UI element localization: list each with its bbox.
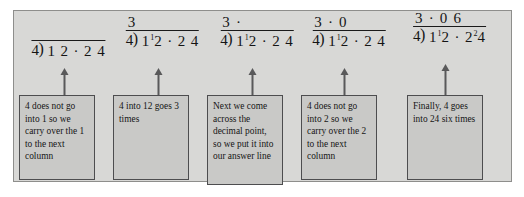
- quotient-2: 3: [117, 15, 199, 30]
- carry-mark: 1: [337, 33, 341, 42]
- arrow-4: [340, 68, 349, 95]
- arrow-3: [248, 68, 257, 95]
- division-expression-2: 3 4 ) 112 · 2 4: [117, 15, 199, 50]
- division-step-4: 3 · 0 4 ) 112 · 2 4 4 does not go into 2…: [292, 11, 397, 181]
- arrow-1: [60, 68, 69, 95]
- division-expression-5: 3 · 0 6 4 ) 112 · 224: [404, 11, 486, 46]
- arrow-head-icon: [60, 68, 68, 75]
- division-step-5: 3 · 0 6 4 ) 112 · 224 Finally, 4 goes in…: [389, 11, 501, 181]
- dividend-2: 112 · 2 4: [140, 32, 199, 50]
- division-step-3: 3 · 4 ) 112 · 2 4 Next we come across th…: [200, 11, 305, 181]
- dividend-5: 112 · 224: [427, 28, 486, 46]
- quotient-4: 3 · 0: [303, 15, 385, 30]
- explanation-box-1: 4 does not go into 1 so we carry over th…: [19, 95, 95, 180]
- long-division-figure: 4 ) 1 2 · 2 4 4 does not go into 1 so we…: [13, 10, 512, 182]
- arrow-5: [441, 64, 450, 95]
- division-bracket-2: 4 ) 112 · 2 4: [126, 30, 199, 50]
- dividend-3: 112 · 2 4: [234, 32, 293, 50]
- division-expression-4: 3 · 0 4 ) 112 · 2 4: [303, 15, 385, 50]
- division-bracket-glyph-5: ): [420, 27, 425, 44]
- explanation-box-4: 4 does not go into 2 so we carry over th…: [301, 95, 377, 180]
- division-expression-3: 3 · 4 ) 112 · 2 4: [211, 15, 293, 50]
- arrow-shaft: [63, 75, 65, 95]
- dividend-1: 1 2 · 2 4: [45, 42, 105, 60]
- arrow-head-icon: [441, 64, 449, 71]
- explanation-box-5: Finally, 4 goes into 24 six times: [407, 95, 483, 180]
- dividend-4: 112 · 2 4: [326, 32, 385, 50]
- division-step-1: 4 ) 1 2 · 2 4 4 does not go into 1 so we…: [14, 11, 114, 181]
- arrow-shaft: [157, 75, 159, 95]
- arrow-shaft: [252, 75, 254, 95]
- division-bracket-5: 4 ) 112 · 224: [413, 26, 486, 46]
- carry-mark: 1: [150, 33, 154, 42]
- quotient-5: 3 · 0 6: [404, 11, 486, 26]
- quotient-3: 3 ·: [211, 15, 293, 30]
- explanation-box-2: 4 into 12 goes 3 times: [113, 95, 189, 180]
- arrow-head-icon: [154, 68, 162, 75]
- division-bracket-glyph-1: ): [38, 41, 43, 58]
- quotient-1: [22, 25, 105, 40]
- division-expression-1: 4 ) 1 2 · 2 4: [22, 25, 105, 60]
- carry-mark: 2: [474, 29, 478, 38]
- explanation-box-3: Next we come across the decimal point, s…: [207, 95, 283, 185]
- division-bracket-3: 4 ) 112 · 2 4: [220, 30, 293, 50]
- division-bracket-1: 4 ) 1 2 · 2 4: [31, 40, 105, 60]
- division-bracket-glyph-4: ): [319, 31, 324, 48]
- carry-mark: 1: [245, 33, 249, 42]
- division-bracket-glyph-2: ): [133, 31, 138, 48]
- arrow-2: [154, 68, 163, 95]
- division-bracket-4: 4 ) 112 · 2 4: [312, 30, 385, 50]
- division-step-2: 3 4 ) 112 · 2 4 4 into 12 goes 3 times: [108, 11, 208, 181]
- arrow-shaft: [444, 71, 446, 95]
- division-bracket-glyph-3: ): [227, 31, 232, 48]
- carry-mark: 1: [437, 29, 441, 38]
- arrow-head-icon: [249, 68, 257, 75]
- arrow-head-icon: [341, 68, 349, 75]
- arrow-shaft: [344, 75, 346, 95]
